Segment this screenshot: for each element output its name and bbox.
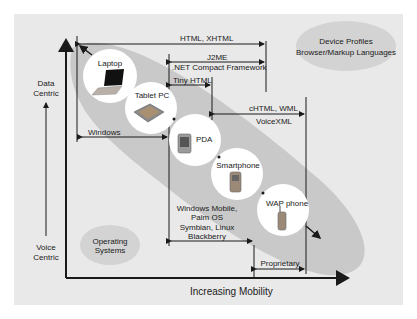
lang-tiny-html: Tiny HTML [173,76,212,85]
os-bubble-line1: Operating [82,237,138,246]
lang-voicexml: VoiceXML [256,117,292,126]
lang-j2me: J2ME [207,53,227,62]
y-axis-top-line2: Centric [22,89,70,98]
device-label-pda: PDA [196,135,212,144]
device-label-smartphone: Smartphone [212,161,264,170]
device-profiles-bubble [296,21,396,71]
y-axis-bottom-line1: Voice [22,243,70,252]
pda-icon [178,134,191,153]
device-label-wap-phone: WAP phone [262,199,312,208]
y-axis-top-line1: Data [22,79,70,88]
device-label-laptop: Laptop [90,59,130,68]
os-mobile-line2: Palm OS [166,213,248,222]
lang-netcf: .NET Compact Framework [172,63,267,72]
device-profiles-title: Device Profiles [301,37,391,46]
os-mobile-line4: Blackberry [166,232,248,241]
lang-html-xhtml: HTML, XHTML [180,34,233,43]
os-proprietary: Proprietary [256,259,304,268]
smartphone-icon [230,172,241,192]
os-windows: Windows [88,128,120,137]
lang-chtml-wml: cHTML, WML [249,104,298,113]
y-axis-bottom-line2: Centric [22,253,70,262]
x-axis-label: Increasing Mobility [190,286,273,297]
device-profiles-subtitle: Browser/Markup Languages [290,48,402,57]
os-bubble-line2: Systems [82,246,138,255]
pda-circle [169,114,221,166]
os-mobile-line3: Symbian, Linux [166,223,248,232]
device-label-tablet: Tablet PC [130,91,174,100]
os-mobile-line1: Windows Mobile, [166,204,248,213]
